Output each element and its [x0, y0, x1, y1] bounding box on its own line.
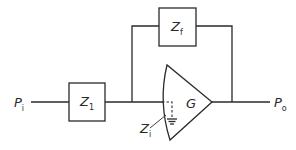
feedback-wire-left: [132, 26, 159, 102]
zi-label: Zi: [139, 121, 151, 139]
input-label: Pi: [14, 95, 24, 113]
circuit-diagram: Pi Z1 Zf G Zi Po: [0, 0, 296, 150]
zi-leader-line: [150, 115, 166, 128]
z1-label: Z1: [79, 94, 94, 112]
feedback-wire-right: [196, 26, 232, 102]
output-label: Po: [274, 95, 287, 113]
ground-icon: [167, 119, 177, 124]
amplifier-gain-label: G: [186, 96, 196, 111]
zf-label: Zf: [170, 19, 183, 37]
